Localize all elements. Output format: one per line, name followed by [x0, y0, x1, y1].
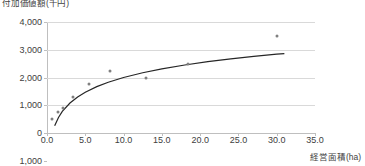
y-tick-mark — [44, 161, 47, 162]
data-point — [88, 83, 91, 86]
gridline — [47, 22, 315, 23]
y-axis-title: 付加価値額(千円) — [2, 0, 69, 8]
y-tick-mark — [44, 78, 47, 79]
chart-container: 付加価値額(千円) 4,0003,0002,0001,00001,000 0.0… — [0, 0, 365, 166]
y-tick-mark — [44, 105, 47, 106]
x-tick-mark — [162, 133, 163, 136]
x-tick-label: 30.0 — [268, 135, 286, 145]
y-tick-label: 1,000 — [19, 156, 42, 166]
x-tick-label: 15.0 — [153, 135, 171, 145]
x-tick-label: 25.0 — [230, 135, 248, 145]
x-tick-label: 10.0 — [115, 135, 133, 145]
y-tick-mark — [44, 22, 47, 23]
x-tick-mark — [315, 133, 316, 136]
data-point — [275, 35, 278, 38]
data-point — [56, 111, 59, 114]
x-tick-label: 35.0 — [306, 135, 324, 145]
y-tick-label: 2,000 — [19, 73, 42, 83]
x-tick-label: 20.0 — [191, 135, 209, 145]
x-axis-line — [47, 133, 315, 134]
x-tick-mark — [85, 133, 86, 136]
x-tick-label: 5.0 — [79, 135, 92, 145]
x-tick-mark — [200, 133, 201, 136]
y-tick-mark — [44, 50, 47, 51]
data-point — [72, 95, 75, 98]
data-point — [51, 118, 54, 121]
x-tick-mark — [47, 133, 48, 136]
x-tick-mark — [238, 133, 239, 136]
y-tick-label: 1,000 — [19, 100, 42, 110]
gridline — [47, 50, 315, 51]
gridline — [47, 105, 315, 106]
y-tick-label: 4,000 — [19, 17, 42, 27]
x-tick-label: 0.0 — [41, 135, 54, 145]
x-tick-mark — [277, 133, 278, 136]
x-tick-mark — [124, 133, 125, 136]
data-point — [62, 107, 65, 110]
x-axis-title: 経営面積(ha) — [310, 150, 361, 162]
data-point — [186, 63, 189, 66]
data-point — [108, 70, 111, 73]
data-point — [144, 77, 147, 80]
gridline — [47, 78, 315, 79]
y-tick-label: 3,000 — [19, 45, 42, 55]
